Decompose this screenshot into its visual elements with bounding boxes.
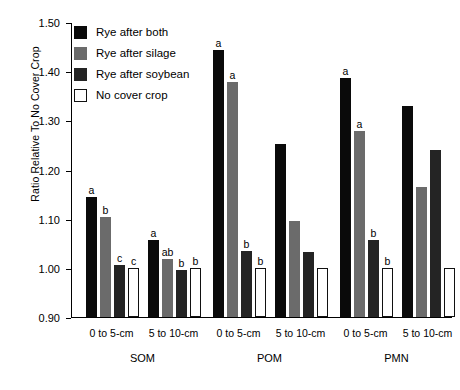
legend-item: Rye after both	[74, 22, 189, 43]
bar	[382, 268, 393, 317]
bar	[354, 131, 365, 317]
bar	[162, 259, 173, 317]
x-depth-label: 0 to 5-cm	[90, 327, 134, 339]
x-depth-label: 0 to 5-cm	[217, 327, 261, 339]
bar	[148, 240, 159, 317]
y-tick-label: 1.50	[26, 18, 60, 29]
significance-letter: a	[151, 228, 157, 239]
bar	[430, 150, 441, 317]
bar	[303, 252, 314, 317]
significance-letter: ab	[162, 247, 174, 258]
bar	[317, 268, 328, 317]
x-depth-label: 0 to 5-cm	[344, 327, 388, 339]
legend-swatch	[74, 68, 87, 81]
bar-chart-figure: Ratio Relative To No Cover Crop 1.501.40…	[0, 0, 460, 390]
bar	[190, 268, 201, 317]
chart-legend: Rye after bothRye after silageRye after …	[74, 22, 189, 106]
y-tick-label: 1.20	[26, 165, 60, 176]
significance-letter: b	[103, 205, 109, 216]
bar	[100, 217, 111, 317]
bar	[213, 50, 224, 317]
bar	[255, 268, 266, 317]
bar	[275, 144, 286, 317]
y-axis-tick-labels: 1.501.401.301.201.101.000.90	[26, 0, 60, 390]
y-tick-label: 1.30	[26, 116, 60, 127]
bar	[86, 197, 97, 317]
y-tick-label: 1.00	[26, 263, 60, 274]
y-tick-mark	[66, 318, 71, 319]
significance-letter: a	[216, 38, 222, 49]
legend-swatch	[74, 89, 87, 102]
bar	[402, 106, 413, 317]
significance-letter: c	[117, 253, 122, 264]
significance-letter: b	[244, 239, 250, 250]
x-depth-label: 5 to 10-cm	[149, 327, 199, 339]
legend-label: No cover crop	[96, 90, 168, 102]
bar	[114, 265, 125, 317]
significance-letter: a	[89, 185, 95, 196]
legend-item: Rye after silage	[74, 43, 189, 64]
legend-label: Rye after silage	[96, 48, 176, 60]
bar	[340, 78, 351, 317]
significance-letter: b	[193, 256, 199, 267]
legend-item: Rye after soybean	[74, 64, 189, 85]
x-group-label: POM	[257, 352, 282, 364]
bar	[241, 251, 252, 317]
bar	[289, 221, 300, 317]
significance-letter: b	[179, 258, 185, 269]
bar	[176, 270, 187, 317]
significance-letter: a	[343, 66, 349, 77]
legend-item: No cover crop	[74, 85, 189, 106]
significance-letter: a	[230, 70, 236, 81]
legend-label: Rye after both	[96, 27, 168, 39]
x-depth-label: 5 to 10-cm	[403, 327, 453, 339]
significance-letter: b	[371, 228, 377, 239]
legend-swatch	[74, 26, 87, 39]
x-depth-label: 5 to 10-cm	[276, 327, 326, 339]
significance-letter: c	[131, 256, 136, 267]
significance-letter: b	[258, 256, 264, 267]
bar	[128, 268, 139, 317]
bar	[416, 187, 427, 317]
y-tick-label: 1.40	[26, 67, 60, 78]
bar	[368, 240, 379, 317]
bar	[227, 82, 238, 317]
bar	[444, 268, 455, 317]
y-tick-label: 1.10	[26, 214, 60, 225]
significance-letter: a	[357, 119, 363, 130]
legend-swatch	[74, 47, 87, 60]
x-group-label: SOM	[130, 352, 155, 364]
significance-letter: b	[385, 256, 391, 267]
x-group-label: PMN	[384, 352, 408, 364]
legend-label: Rye after soybean	[96, 69, 189, 81]
y-tick-label: 0.90	[26, 313, 60, 324]
